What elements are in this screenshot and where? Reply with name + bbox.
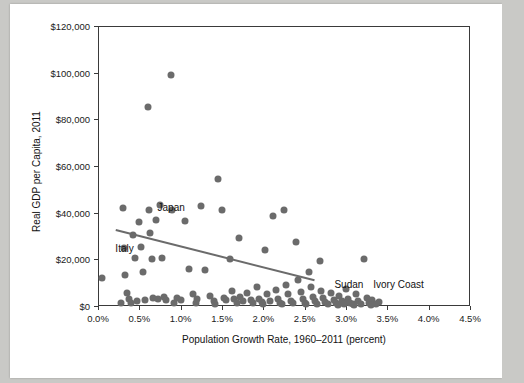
scatter-point bbox=[136, 219, 143, 226]
x-tick-mark bbox=[98, 306, 99, 310]
scatter-point bbox=[278, 301, 285, 308]
scatter-point bbox=[376, 298, 383, 305]
x-tick-label: 0.0% bbox=[87, 313, 109, 324]
y-tick-label: $40,000 bbox=[18, 207, 90, 218]
y-tick-mark bbox=[94, 259, 98, 260]
scatter-point bbox=[212, 300, 219, 307]
scatter-point bbox=[285, 291, 292, 298]
x-tick-label: 1.5% bbox=[211, 313, 233, 324]
y-tick-label: $120,000 bbox=[18, 21, 90, 32]
scatter-point bbox=[228, 287, 235, 294]
y-tick-label: $0 bbox=[18, 301, 90, 312]
scatter-point bbox=[261, 247, 268, 254]
figure-card: 0.0%0.5%1.0%1.5%2.0%2.5%3.0%3.5%4.0%4.5%… bbox=[10, 4, 502, 378]
point-annotation-ivory-coast: Ivory Coast bbox=[373, 279, 424, 290]
scatter-point bbox=[159, 255, 166, 262]
scatter-point bbox=[192, 300, 199, 307]
scatter-point bbox=[152, 216, 159, 223]
x-tick-mark bbox=[429, 306, 430, 310]
scatter-point bbox=[272, 286, 279, 293]
x-tick-label: 0.5% bbox=[129, 313, 151, 324]
plot-frame bbox=[98, 26, 470, 306]
scatter-point bbox=[293, 238, 300, 245]
scatter-point bbox=[266, 298, 273, 305]
screenshot-page: 0.0%0.5%1.0%1.5%2.0%2.5%3.0%3.5%4.0%4.5%… bbox=[0, 0, 524, 383]
scatter-point bbox=[99, 275, 106, 282]
x-tick-label: 4.0% bbox=[418, 313, 440, 324]
scatter-point bbox=[351, 301, 358, 308]
scatter-point bbox=[140, 269, 147, 276]
scatter-point bbox=[198, 202, 205, 209]
scatter-point bbox=[314, 300, 321, 307]
scatter-point bbox=[357, 300, 364, 307]
scatter-point bbox=[146, 207, 153, 214]
scatter-point bbox=[243, 290, 250, 297]
x-tick-label: 3.5% bbox=[377, 313, 399, 324]
scatter-point bbox=[334, 301, 341, 308]
page-background-strip bbox=[502, 0, 524, 383]
scatter-point bbox=[137, 243, 144, 250]
scatter-point bbox=[281, 207, 288, 214]
scatter-point bbox=[119, 205, 126, 212]
scatter-point bbox=[122, 271, 129, 278]
y-tick-label: $100,000 bbox=[18, 67, 90, 78]
point-annotation-japan: Japan bbox=[158, 202, 185, 213]
x-tick-label: 1.0% bbox=[170, 313, 192, 324]
scatter-chart: 0.0%0.5%1.0%1.5%2.0%2.5%3.0%3.5%4.0%4.5%… bbox=[10, 4, 502, 378]
scatter-point bbox=[290, 300, 297, 307]
scatter-point bbox=[167, 72, 174, 79]
scatter-point bbox=[264, 291, 271, 298]
scatter-point bbox=[171, 299, 178, 306]
scatter-point bbox=[162, 297, 169, 304]
scatter-point bbox=[297, 289, 304, 296]
y-axis-label: Real GDP per Capita, 2011 bbox=[31, 72, 42, 272]
scatter-point bbox=[202, 266, 209, 273]
scatter-point bbox=[235, 235, 242, 242]
x-tick-mark bbox=[222, 306, 223, 310]
y-tick-mark bbox=[94, 26, 98, 27]
scatter-point bbox=[260, 300, 267, 307]
x-axis-label: Population Growth Rate, 1960–2011 (perce… bbox=[98, 334, 470, 345]
scatter-point bbox=[270, 213, 277, 220]
scatter-point bbox=[316, 257, 323, 264]
y-tick-mark bbox=[94, 166, 98, 167]
scatter-point bbox=[118, 299, 125, 306]
scatter-point bbox=[148, 256, 155, 263]
scatter-point bbox=[144, 103, 151, 110]
x-tick-label: 3.0% bbox=[335, 313, 357, 324]
scatter-point bbox=[367, 301, 374, 308]
scatter-point bbox=[318, 287, 325, 294]
scatter-point bbox=[214, 175, 221, 182]
y-tick-label: $60,000 bbox=[18, 161, 90, 172]
scatter-point bbox=[303, 301, 310, 308]
x-tick-mark bbox=[139, 306, 140, 310]
y-tick-mark bbox=[94, 213, 98, 214]
scatter-point bbox=[308, 284, 315, 291]
scatter-point bbox=[185, 265, 192, 272]
y-tick-mark bbox=[94, 306, 98, 307]
scatter-point bbox=[253, 284, 260, 291]
scatter-point bbox=[142, 297, 149, 304]
x-tick-mark bbox=[470, 306, 471, 310]
x-tick-label: 4.5% bbox=[459, 313, 481, 324]
y-tick-mark bbox=[94, 119, 98, 120]
scatter-point bbox=[147, 229, 154, 236]
y-tick-label: $20,000 bbox=[18, 254, 90, 265]
scatter-point bbox=[361, 256, 368, 263]
scatter-point bbox=[177, 297, 184, 304]
point-annotation-italy: Italy bbox=[115, 243, 133, 254]
scatter-point bbox=[132, 255, 139, 262]
y-tick-mark bbox=[94, 73, 98, 74]
scatter-point bbox=[233, 300, 240, 307]
scatter-point bbox=[181, 217, 188, 224]
x-tick-label: 2.0% bbox=[253, 313, 275, 324]
scatter-point bbox=[223, 297, 230, 304]
scatter-point bbox=[283, 282, 290, 289]
scatter-point bbox=[305, 269, 312, 276]
x-tick-label: 2.5% bbox=[294, 313, 316, 324]
scatter-point bbox=[128, 300, 135, 307]
scatter-point bbox=[219, 207, 226, 214]
y-tick-label: $80,000 bbox=[18, 114, 90, 125]
scatter-point bbox=[328, 290, 335, 297]
x-tick-mark bbox=[387, 306, 388, 310]
